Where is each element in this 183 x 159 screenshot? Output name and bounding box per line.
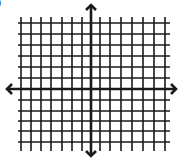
coordinate-plane — [0, 0, 183, 159]
axes — [7, 5, 176, 156]
grid-lines — [18, 17, 170, 151]
